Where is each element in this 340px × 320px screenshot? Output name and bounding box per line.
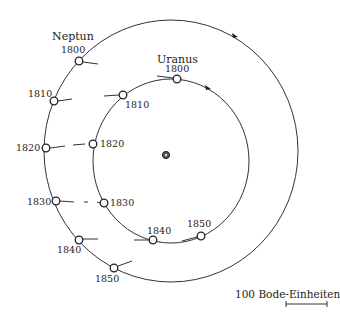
scale-bar [286,301,327,307]
uranus-1810-marker [119,91,127,99]
uranus-1840-marker [149,236,157,244]
sun-icon [162,151,169,158]
orbit-diagram: Neptun Uranus 1800 1810 1820 1830 1840 1… [0,0,340,320]
neptune-1840-marker [75,236,83,244]
uranus-year-label: 1810 [125,99,149,110]
neptune-1820-marker [42,144,50,152]
neptune-year-label: 1830 [27,196,51,207]
uranus-1850-marker [197,232,205,240]
neptune-year-label: 1810 [28,88,52,99]
neptune-1850-marker [110,264,118,272]
neptune-direction-arrow-icon [232,33,238,38]
neptune-year-label: 1800 [61,44,85,55]
neptune-label: Neptun [52,30,94,43]
neptune-year-label: 1850 [95,273,119,284]
uranus-year-label: 1800 [165,63,189,74]
uranus-orbit [93,79,249,243]
uranus-direction-arrow-icon [205,85,211,90]
uranus-year-label: 1820 [100,138,124,149]
uranus-1820-marker [89,140,97,148]
neptune-1830-marker [52,197,60,205]
neptune-1800-marker [75,57,83,65]
neptune-year-label: 1840 [57,244,81,255]
neptune-markers [42,57,118,272]
uranus-1800-marker [173,75,181,83]
uranus-year-label: 1840 [147,225,171,236]
uranus-year-label: 1830 [110,197,134,208]
uranus-year-label: 1850 [187,218,211,229]
scale-label: 100 Bode-Einheiten [235,288,340,300]
uranus-1830-marker [100,199,108,207]
neptune-year-label: 1820 [16,142,40,153]
